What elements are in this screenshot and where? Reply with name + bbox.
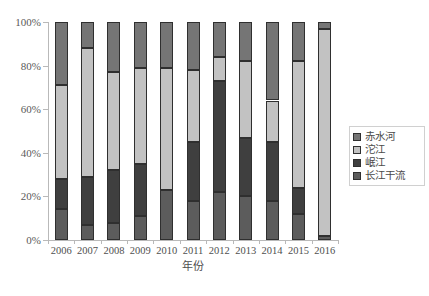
x-axis-tick [338,240,339,244]
x-axis-title: 年份 [48,261,338,272]
legend-item: 沱江 [353,143,422,156]
bar-segment [266,142,279,201]
y-axis-tick-label: 0% [26,235,41,246]
legend-swatch-icon [353,133,361,141]
bar-segment [107,170,120,222]
y-axis-tick [43,109,48,110]
bar-segment [81,177,94,225]
bar-segment [213,81,226,192]
bar-segment [81,48,94,177]
x-axis-label: 2013 [235,246,256,257]
bar-segment [107,72,120,170]
bar-segment [187,22,200,70]
bar-segment [239,61,252,137]
legend-item-label: 赤水河 [365,131,395,142]
legend-item-label: 长江干流 [365,170,405,181]
x-axis-tick [48,240,49,244]
bar-segment [134,68,147,164]
bar-segment [107,22,120,72]
bar-segment [160,190,173,240]
bar-segment [134,164,147,216]
x-axis-tick [127,240,128,244]
bar-segment [266,22,279,100]
bar-segment [187,142,200,201]
bar-segment [213,57,226,81]
bar-segment [318,22,331,29]
x-axis-label: 2006 [51,246,72,257]
bar-segment [213,192,226,240]
bar-segment [134,22,147,68]
y-axis-tick-label: 40% [21,147,41,158]
bar-segment [134,216,147,240]
bar-segment [292,188,305,214]
x-axis-tick [180,240,181,244]
bar-segment [318,236,331,240]
stacked-bar [318,22,331,240]
x-axis-tick [206,240,207,244]
bar-segment [266,201,279,240]
y-axis-tick-label: 20% [21,191,41,202]
bar-segment [81,225,94,240]
stacked-bar [266,22,279,240]
bar-segment [239,196,252,240]
bar-segment [239,138,252,197]
bar-segment [160,68,173,190]
stacked-bar [213,22,226,240]
y-axis-tick-label: 60% [21,104,41,115]
bar-segment [55,22,68,85]
y-axis-tick [43,196,48,197]
legend-item: 岷江 [353,156,422,169]
bar-segment [266,101,279,142]
x-axis-label: 2008 [103,246,124,257]
plot-area: 0%20%40%60%80%100% [48,22,338,240]
legend-item-label: 沱江 [365,144,385,155]
bar-segment [213,22,226,57]
bar-segment [81,22,94,48]
x-axis-line [48,240,339,241]
x-axis-label: 2007 [77,246,98,257]
x-axis-tick [153,240,154,244]
x-axis-tick [285,240,286,244]
bar-segment [55,179,68,210]
chart-legend: 赤水河沱江岷江长江干流 [349,126,425,186]
x-axis-label: 2014 [262,246,283,257]
x-axis-tick [74,240,75,244]
bar-segment [318,29,331,236]
bar-segment [160,22,173,68]
stacked-bar [239,22,252,240]
bar-segment [55,209,68,240]
legend-item: 长江干流 [353,169,422,182]
stacked-bar [55,22,68,240]
x-axis-label: 2009 [130,246,151,257]
legend-item: 赤水河 [353,130,422,143]
y-axis-tick-label: 100% [15,17,41,28]
bar-segment [239,22,252,61]
x-axis-tick [259,240,260,244]
bar-segment [187,70,200,142]
bar-segment [187,201,200,240]
legend-swatch-icon [353,172,361,180]
x-axis-label: 2011 [183,246,204,257]
y-axis-tick [43,153,48,154]
legend-swatch-icon [353,159,361,167]
stacked-bar [187,22,200,240]
bar-segment [292,22,305,61]
stacked-bar [160,22,173,240]
legend-item-label: 岷江 [365,157,385,168]
x-axis-tick [101,240,102,244]
stacked-bar [292,22,305,240]
bar-segment [292,214,305,240]
y-axis-tick [43,66,48,67]
chart-figure: 0%20%40%60%80%100% 200620072008200920102… [0,0,429,296]
x-axis-label: 2012 [209,246,230,257]
y-axis-tick-label: 80% [21,60,41,71]
x-axis-label: 2010 [156,246,177,257]
bar-segment [107,223,120,240]
x-axis-label: 2015 [288,246,309,257]
x-axis-tick [312,240,313,244]
stacked-bar [107,22,120,240]
x-axis-label: 2016 [314,246,335,257]
bar-segment [55,85,68,179]
stacked-bar [134,22,147,240]
y-axis-tick [43,22,48,23]
